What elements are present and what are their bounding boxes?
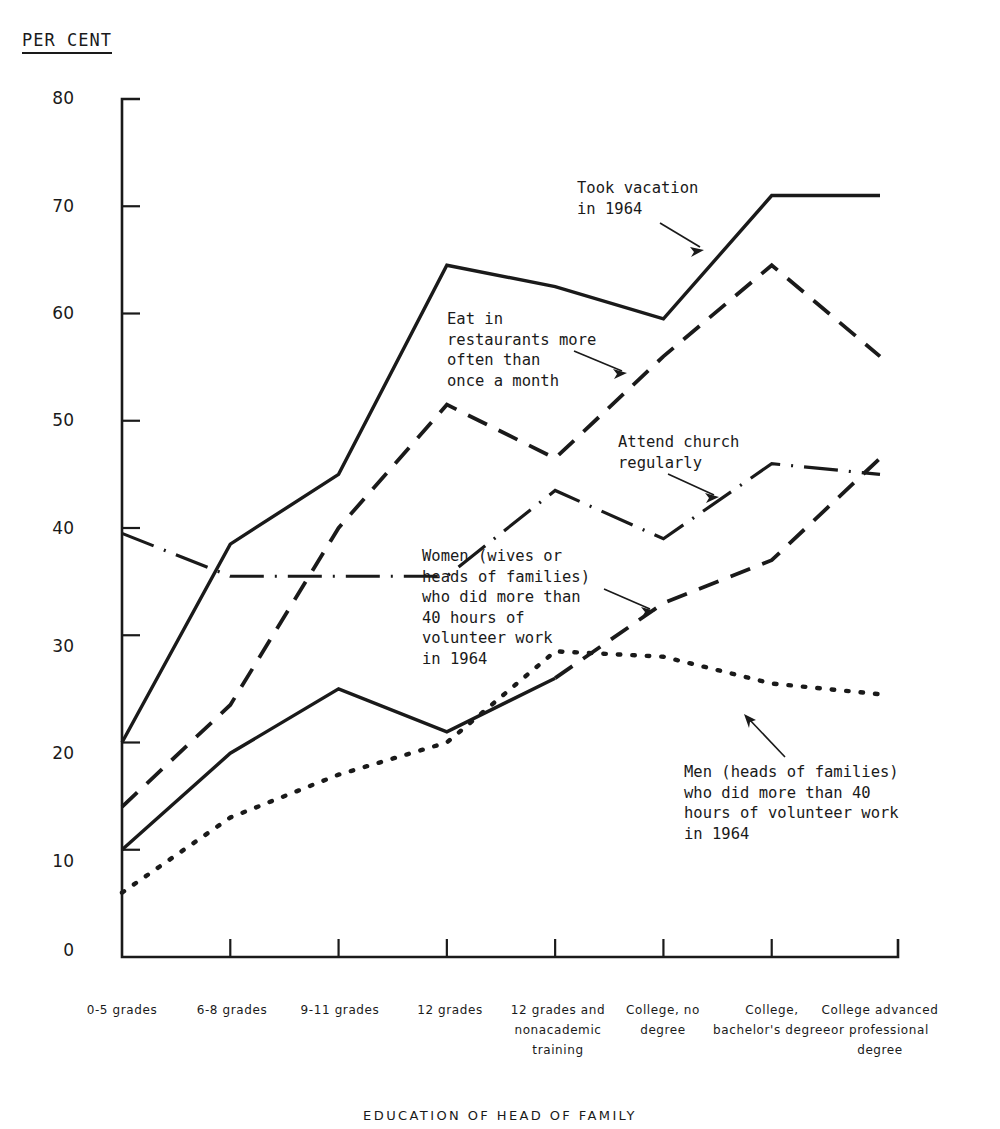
series-line-1 — [122, 265, 880, 807]
leader-women-volunteers — [604, 589, 650, 609]
leader-took-vacation — [660, 223, 700, 247]
chart-figure: PER CENT 80 70 60 50 40 30 20 10 0 0-5 g… — [0, 0, 1000, 1129]
leader-arrow-men-volunteers — [744, 714, 756, 728]
data-series-layer — [122, 196, 880, 893]
plot-area — [0, 0, 1000, 1129]
series-line-2 — [122, 464, 880, 577]
leader-eat-in-restaurants — [574, 351, 622, 371]
leader-men-volunteers — [748, 718, 785, 757]
y-axis-ticks — [122, 206, 140, 850]
series-line-4 — [122, 651, 880, 892]
leader-arrow-took-vacation — [690, 247, 704, 257]
leader-attend-church — [668, 474, 714, 495]
series-line-3-dashed — [555, 458, 880, 678]
x-axis-ticks — [230, 939, 771, 957]
